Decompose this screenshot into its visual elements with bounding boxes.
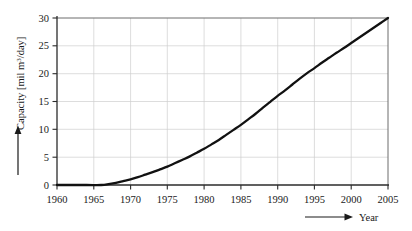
- xtick-label-2000: 2000: [341, 194, 362, 205]
- ytick-label-10: 10: [39, 124, 50, 135]
- xtick-label-2005: 2005: [378, 194, 399, 205]
- xtick-label-1975: 1975: [157, 194, 178, 205]
- xtick-label-1980: 1980: [194, 194, 215, 205]
- xtick-label-1995: 1995: [304, 194, 325, 205]
- ytick-label-20: 20: [39, 68, 50, 79]
- y-axis-title-prefix: Capacity [mil m: [15, 62, 26, 130]
- ytick-label-15: 15: [39, 96, 50, 107]
- y-axis-title: Capacity [mil m3/day]: [15, 37, 27, 130]
- ytick-label-30: 30: [39, 13, 50, 24]
- capacity-vs-year-line-chart: 0 5 10 15 20 25 30 1960 1965 1970 1975 1…: [0, 0, 412, 231]
- xtick-label-1965: 1965: [83, 194, 104, 205]
- x-axis-title: Year: [359, 212, 379, 223]
- ytick-label-25: 25: [39, 40, 50, 51]
- ytick-label-0: 0: [44, 180, 49, 191]
- xtick-label-1960: 1960: [47, 194, 68, 205]
- ytick-label-5: 5: [44, 152, 49, 163]
- y-axis-title-suffix: /day]: [15, 37, 26, 59]
- chart-figure: 0 5 10 15 20 25 30 1960 1965 1970 1975 1…: [0, 0, 412, 231]
- xtick-label-1970: 1970: [120, 194, 141, 205]
- xtick-label-1985: 1985: [230, 194, 251, 205]
- xtick-label-1990: 1990: [267, 194, 288, 205]
